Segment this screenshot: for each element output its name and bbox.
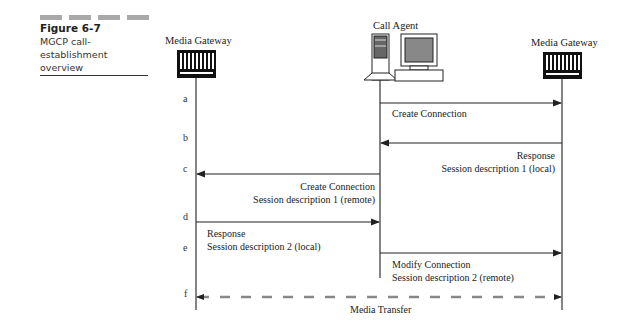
msg-b-label: Response Session description 1 (local) [441,149,555,175]
step-b: b [183,132,188,143]
step-a: a [183,93,187,104]
msg-e-label: Modify Connection Session description 2 … [392,258,514,284]
msg-f-label: Media Transfer [350,303,411,316]
msg-d-label: Response Session description 2 (local) [207,227,321,253]
right-gateway-icon [543,52,582,79]
call-agent-computer-icon [364,34,443,81]
step-e: e [183,242,187,253]
step-f: f [184,288,187,299]
step-d: d [183,211,188,222]
step-c: c [183,163,187,174]
msg-c-label: Create Connection Session description 1 … [253,180,375,206]
left-gateway-icon [177,50,216,78]
msg-a-label: Create Connection [392,107,467,120]
